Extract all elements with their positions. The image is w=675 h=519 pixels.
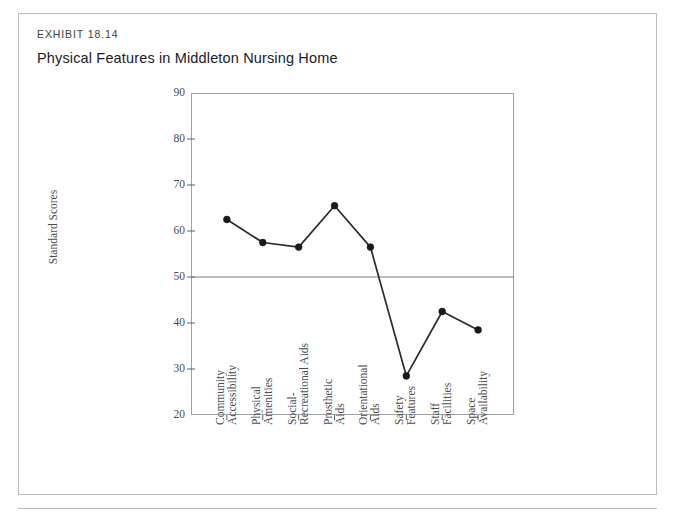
y-axis-title: Standard Scores [47, 167, 59, 287]
data-point-2 [295, 244, 302, 251]
data-point-6 [439, 308, 446, 315]
y-axis-tick-90: 90 [159, 87, 185, 99]
y-axis-tick-50: 50 [159, 271, 185, 283]
y-axis-tick-20: 20 [159, 409, 185, 421]
data-point-1 [259, 239, 266, 246]
y-axis-tick-80: 80 [159, 133, 185, 145]
y-axis-tick-30: 30 [159, 363, 185, 375]
line-chart: Standard Scores 2030405060708090 Communi… [19, 76, 656, 495]
source-divider [18, 508, 657, 509]
x-axis-category-label: StaffFacilities [429, 330, 453, 425]
x-axis-category-label: SpaceAvailability [465, 330, 489, 425]
y-axis-tick-60: 60 [159, 225, 185, 237]
y-axis-tick-labels: 2030405060708090 [157, 76, 185, 436]
exhibit-card: EXHIBIT 18.14 Physical Features in Middl… [18, 13, 657, 495]
exhibit-title: Physical Features in Middleton Nursing H… [37, 50, 338, 66]
exhibit-number-label: EXHIBIT 18.14 [37, 28, 119, 40]
x-axis-category-label: ProstheticAids [322, 330, 346, 425]
x-axis-category-label: CommunityAccessibility [214, 330, 238, 425]
data-point-4 [367, 244, 374, 251]
x-axis-category-label: OrientationalAids [357, 330, 381, 425]
y-axis-tick-40: 40 [159, 317, 185, 329]
data-point-3 [331, 202, 338, 209]
x-axis-category-label: SafetyFeatures [393, 330, 417, 425]
x-axis-category-label: PhysicalAmenities [250, 330, 274, 425]
y-axis-tick-70: 70 [159, 179, 185, 191]
data-point-0 [223, 216, 230, 223]
page-root: EXHIBIT 18.14 Physical Features in Middl… [0, 0, 675, 519]
x-axis-category-label: Social-Recreational Aids [286, 330, 310, 425]
x-axis-tick-labels: CommunityAccessibilityPhysicalAmenitiesS… [191, 417, 514, 517]
